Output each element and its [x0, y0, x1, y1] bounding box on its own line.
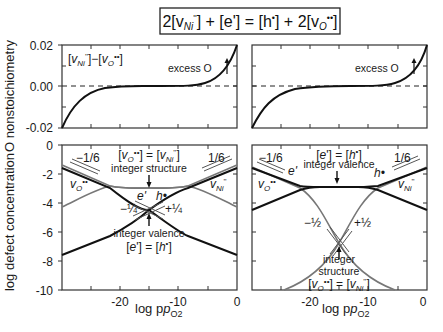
vni-minus-vo-label: [vNi'']−[vO••]	[68, 52, 123, 68]
svg-text:h•: h•	[374, 166, 385, 180]
excess-o-label: excess O	[168, 62, 212, 74]
top-y-axis-label: O nonstoichiometry	[2, 40, 17, 152]
svg-text:+¼: +¼	[165, 202, 183, 216]
svg-text:0: 0	[234, 295, 241, 309]
footer-equation: [vO••] = [vNi'']	[308, 277, 370, 293]
svg-text:-10: -10	[359, 295, 377, 309]
svg-text:−¼: −¼	[120, 202, 138, 216]
svg-text:-20: -20	[301, 295, 319, 309]
arrow-up-icon	[225, 58, 230, 63]
svg-text:excess O: excess O	[355, 62, 399, 74]
panel-bottom-left: −1/6 1/6 vO•• vNi'' e' h• −¼ +¼ [vO••] =…	[36, 139, 241, 319]
svg-text:-10: -10	[36, 284, 54, 298]
bottom-y-axis-label: log defect concentration	[2, 153, 17, 291]
panel-top-right: excess O	[252, 45, 427, 128]
svg-text:integer valence: integer valence	[303, 158, 374, 170]
arrow-up-icon	[412, 58, 417, 63]
arrow-down-icon	[335, 178, 340, 184]
svg-text:integer: integer	[323, 253, 356, 265]
svg-text:1/6: 1/6	[394, 151, 411, 165]
svg-text:-8: -8	[42, 255, 53, 269]
footer-equation: [e'] = [h•]	[126, 239, 172, 254]
svg-text:1/6: 1/6	[208, 151, 225, 165]
svg-text:+½: +½	[354, 216, 371, 230]
svg-text:0.02: 0.02	[30, 39, 54, 53]
panel-bottom-right: −1/6 1/6 e' h• vO•• vNi'' [e'] = [h•] in…	[252, 145, 427, 319]
vo-label: vO••	[258, 177, 276, 193]
svg-text:-4: -4	[42, 197, 53, 211]
svg-text:e': e'	[137, 189, 147, 203]
svg-text:-0.02: -0.02	[26, 121, 54, 135]
svg-text:-6: -6	[42, 226, 53, 240]
vni-label: vNi''	[210, 177, 227, 193]
svg-text:−½: −½	[304, 216, 321, 230]
vo-label: vO••	[70, 177, 88, 193]
svg-text:−1/6: −1/6	[76, 151, 100, 165]
panel-top-left: 0.02 0.00 -0.02 [vNi'']−[vO••] excess O	[26, 39, 237, 135]
svg-text:e': e'	[288, 164, 298, 178]
svg-text:-2: -2	[42, 168, 53, 182]
svg-text:-20: -20	[111, 295, 129, 309]
arrow-down-icon	[147, 182, 152, 188]
vni-label: vNi''	[398, 177, 415, 193]
svg-text:−1/6: −1/6	[259, 151, 283, 165]
svg-text:0.00: 0.00	[30, 80, 54, 94]
svg-text:0: 0	[420, 295, 427, 309]
svg-text:structure: structure	[319, 265, 360, 277]
figure: 2[vNi''] + [e'] = [h•] + 2[vO••] O nonst…	[0, 0, 443, 332]
svg-text:0: 0	[46, 139, 53, 153]
svg-text:integer valence: integer valence	[113, 227, 184, 239]
svg-text:h•: h•	[156, 189, 167, 203]
svg-text:integer structure: integer structure	[111, 162, 187, 174]
svg-text:-10: -10	[169, 295, 187, 309]
